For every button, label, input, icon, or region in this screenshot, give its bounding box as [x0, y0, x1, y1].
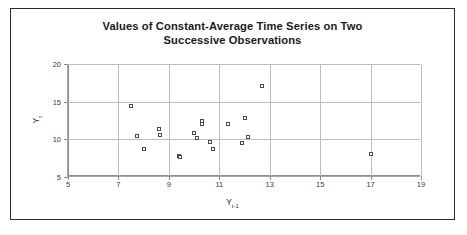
gridline-vertical [371, 64, 372, 176]
x-tick-label: 17 [366, 180, 374, 189]
y-axis-spine [68, 64, 69, 176]
scatter-point [369, 152, 373, 156]
y-axis-label-subscript: t [37, 116, 43, 118]
scatter-point [135, 134, 139, 138]
scatter-point [142, 147, 146, 151]
scatter-point [246, 135, 250, 139]
scatter-point [211, 147, 215, 151]
x-tick-label: 11 [215, 180, 223, 189]
x-axis-spine [68, 175, 420, 176]
x-tick-label: 7 [116, 180, 120, 189]
scatter-point [178, 155, 182, 159]
y-tick-label: 5 [57, 173, 61, 182]
y-axis-label: Yt [31, 116, 43, 123]
chart-figure: Values of Constant-Average Time Series o… [10, 8, 455, 220]
gridline-horizontal [68, 64, 420, 65]
x-tick-label: 9 [167, 180, 171, 189]
gridline-vertical [421, 64, 422, 176]
scatter-point [226, 122, 230, 126]
scatter-point [157, 127, 161, 131]
gridline-vertical [118, 64, 119, 176]
plot-area: 5101520 5791113151719 [67, 64, 420, 177]
y-tick-label: 20 [53, 60, 61, 69]
x-axis-label: Yt-1 [11, 197, 454, 209]
chart-title-line-1: Values of Constant-Average Time Series o… [11, 19, 454, 33]
gridline-vertical [169, 64, 170, 176]
scatter-point [158, 133, 162, 137]
y-tick-label: 10 [53, 135, 61, 144]
scatter-point [195, 136, 199, 140]
x-tick-label: 15 [316, 180, 324, 189]
gridline-vertical [270, 64, 271, 176]
scatter-point [129, 104, 133, 108]
gridline-vertical [320, 64, 321, 176]
y-tick-mark [64, 64, 68, 65]
scatter-point [192, 131, 196, 135]
scatter-point [200, 122, 204, 126]
scatter-point [243, 116, 247, 120]
scatter-point [260, 84, 264, 88]
gridline-horizontal [68, 139, 420, 140]
gridline-vertical [219, 64, 220, 176]
x-tick-label: 13 [266, 180, 274, 189]
x-tick-label: 5 [66, 180, 70, 189]
scatter-point [208, 140, 212, 144]
gridline-horizontal [68, 102, 420, 103]
y-tick-label: 15 [53, 97, 61, 106]
chart-title-line-2: Successive Observations [11, 33, 454, 47]
y-tick-mark [64, 139, 68, 140]
scatter-point [240, 141, 244, 145]
y-axis-label-text: Y [31, 118, 41, 124]
y-tick-mark [64, 102, 68, 103]
chart-title: Values of Constant-Average Time Series o… [11, 19, 454, 47]
x-tick-label: 19 [417, 180, 425, 189]
x-axis-label-subscript: t-1 [232, 203, 239, 209]
